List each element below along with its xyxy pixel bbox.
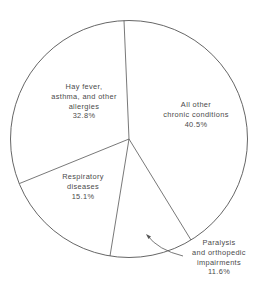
label-percent: 32.8% (51, 111, 117, 121)
label-line: diseases (62, 182, 104, 192)
label-line: Respiratory (62, 172, 104, 182)
label-percent: 11.6% (192, 267, 246, 277)
label-line: and orthopedic (192, 248, 246, 258)
label-allergies: Hay fever, asthma, and other allergies 3… (51, 82, 117, 121)
label-percent: 15.1% (62, 192, 104, 202)
label-other-chronic: All other chronic conditions 40.5% (163, 100, 228, 129)
label-respiratory: Respiratory diseases 15.1% (62, 172, 104, 201)
label-line: Paralysis (192, 238, 246, 248)
label-paralysis: Paralysis and orthopedic impairments 11.… (192, 238, 246, 277)
label-line: asthma, and other (51, 92, 117, 102)
label-line: chronic conditions (163, 110, 228, 120)
label-percent: 40.5% (163, 120, 228, 130)
label-line: All other (163, 100, 228, 110)
label-line: Hay fever, (51, 82, 117, 92)
label-line: impairments (192, 258, 246, 268)
label-line: allergies (51, 102, 117, 112)
